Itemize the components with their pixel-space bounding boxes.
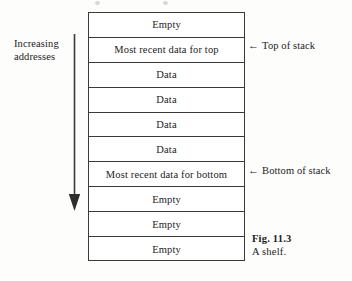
shelf-row-label: Empty — [152, 19, 181, 30]
shelf-row-label: Data — [156, 119, 176, 130]
figure-caption-text: A shelf. — [252, 245, 291, 258]
shelf-row-label: Empty — [152, 244, 181, 255]
shelf-row: Empty — [89, 13, 244, 38]
shelf-row: Empty — [89, 212, 244, 237]
shelf-row-label: Most recent data for top — [114, 44, 218, 55]
figure-caption: Fig. 11.3 A shelf. — [252, 232, 291, 258]
figure-caption-number: Fig. 11.3 — [252, 232, 291, 245]
shelf-row: Most recent data for top — [89, 38, 244, 63]
scan-artifact — [95, 1, 100, 5]
left-arrow-icon: ← — [248, 165, 259, 176]
shelf-row-label: Empty — [152, 194, 181, 205]
shelf-box: Empty Most recent data for top Data Data… — [88, 12, 245, 261]
shelf-row: Data — [89, 63, 244, 88]
shelf-row: Data — [89, 88, 244, 113]
bottom-of-stack-label: Bottom of stack — [262, 165, 331, 176]
shelf-row: Data — [89, 113, 244, 138]
figure-container: Increasing addresses Empty Most recent d… — [0, 0, 352, 281]
down-arrow-icon — [64, 34, 86, 212]
top-of-stack-label: Top of stack — [262, 40, 315, 51]
shelf-row-label: Empty — [152, 219, 181, 230]
shelf-row-label: Data — [156, 69, 176, 80]
shelf-row-label: Data — [156, 144, 176, 155]
shelf-row-label: Data — [156, 94, 176, 105]
left-arrow-icon: ← — [248, 40, 259, 51]
shelf-row: Most recent data for bottom — [89, 162, 244, 187]
shelf-row: Data — [89, 137, 244, 162]
scan-artifact — [163, 1, 168, 5]
shelf-row-label: Most recent data for bottom — [106, 169, 227, 180]
shelf-row: Empty — [89, 237, 244, 262]
shelf-row: Empty — [89, 187, 244, 212]
top-of-stack-pointer: ← Top of stack — [248, 40, 315, 51]
bottom-of-stack-pointer: ← Bottom of stack — [248, 165, 331, 176]
